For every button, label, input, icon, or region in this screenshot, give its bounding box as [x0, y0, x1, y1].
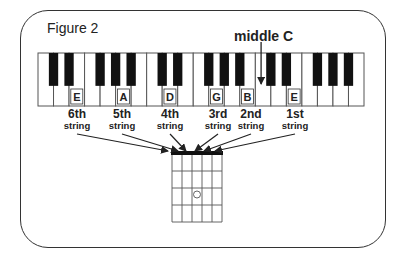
black-key: [344, 53, 353, 86]
note-label: B: [244, 91, 252, 103]
string-number: 1st: [275, 108, 315, 120]
string-arrow: [122, 134, 178, 151]
black-key: [111, 53, 120, 86]
string-number: 2nd: [231, 108, 271, 120]
black-key: [49, 53, 58, 86]
black-key: [95, 53, 104, 86]
note-label: E: [73, 91, 80, 103]
string-label: 5thstring: [102, 108, 142, 131]
note-label: A: [119, 91, 127, 103]
black-key: [126, 53, 135, 86]
finger-dot: [194, 191, 201, 198]
string-word: string: [57, 121, 97, 131]
black-key: [282, 53, 291, 86]
string-number: 6th: [57, 108, 97, 120]
note-label: D: [166, 91, 174, 103]
string-word: string: [102, 121, 142, 131]
string-arrow: [195, 134, 218, 151]
fretboard-nut: [171, 151, 223, 155]
string-arrow: [77, 134, 168, 151]
string-word: string: [231, 121, 271, 131]
black-key: [313, 53, 322, 86]
string-number: 4th: [150, 108, 190, 120]
black-key: [220, 53, 229, 86]
string-label: 4thstring: [150, 108, 190, 131]
string-label: 2ndstring: [231, 108, 271, 131]
string-word: string: [275, 121, 315, 131]
string-label: 1ststring: [275, 108, 315, 131]
black-key: [235, 53, 244, 86]
black-key: [158, 53, 167, 86]
string-label: 6thstring: [57, 108, 97, 131]
black-key: [266, 53, 275, 86]
black-key: [328, 53, 337, 86]
black-key: [64, 53, 73, 86]
string-number: 5th: [102, 108, 142, 120]
black-key: [204, 53, 213, 86]
note-label: G: [212, 91, 221, 103]
string-arrow: [170, 134, 186, 151]
note-label: E: [290, 91, 297, 103]
black-key: [173, 53, 182, 86]
string-word: string: [150, 121, 190, 131]
